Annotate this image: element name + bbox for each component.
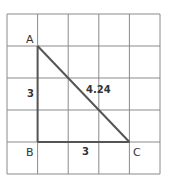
vertex-label-a: A xyxy=(26,34,34,45)
side-ab-length: 3 xyxy=(27,89,34,99)
vertex-label-c: C xyxy=(133,147,141,158)
side-ac-length: 4.24 xyxy=(86,85,111,95)
side-bc-length: 3 xyxy=(82,147,89,157)
triangle-abc xyxy=(38,46,130,142)
side-ac xyxy=(38,46,130,142)
vertex-label-b: B xyxy=(26,147,34,158)
